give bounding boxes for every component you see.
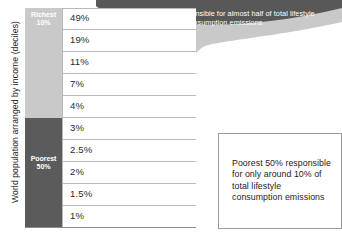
decile-cell-5 <box>25 96 62 118</box>
lifestyle-emissions-funnel-chart: World population arranged by income (dec… <box>0 0 342 235</box>
table-row: 2% <box>62 162 196 184</box>
decile-color-column: Richest 10% Poorest 50% <box>25 8 62 228</box>
group-label-richest: Richest 10% <box>25 11 62 28</box>
group-label-poorest-line2: 50% <box>37 163 51 171</box>
annotation-richest: Richest 10% responsible for almost half … <box>112 9 336 28</box>
decile-cell-2 <box>25 30 62 52</box>
decile-value-3: 11% <box>70 56 89 67</box>
table-row: 19% <box>62 30 196 52</box>
table-row: 1% <box>62 206 196 228</box>
group-label-richest-line2: 10% <box>37 19 51 27</box>
group-label-poorest-line1: Poorest <box>31 155 57 163</box>
table-row: 11% <box>62 52 196 74</box>
decile-cell-9 <box>25 184 62 206</box>
table-row: 4% <box>62 96 196 118</box>
plot-bottom-axis-line <box>25 227 196 228</box>
decile-cell-6 <box>25 118 62 140</box>
decile-column-divider <box>62 8 63 228</box>
decile-value-9: 1.5% <box>70 188 92 199</box>
decile-value-2: 19% <box>70 34 90 45</box>
value-rows: 49% 19% 11% 7% 4% 3% 2.5% 2% 1.5% 1% <box>62 8 196 228</box>
decile-cell-10 <box>25 206 62 228</box>
decile-value-4: 7% <box>70 78 84 89</box>
group-label-poorest: Poorest 50% <box>25 155 62 172</box>
annotation-poorest: Poorest 50% responsible for only around … <box>232 158 332 203</box>
group-label-richest-line1: Richest <box>31 11 56 19</box>
table-row: 7% <box>62 74 196 96</box>
decile-cell-4 <box>25 74 62 96</box>
table-row: 3% <box>62 118 196 140</box>
decile-value-8: 2% <box>70 166 84 177</box>
decile-cell-3 <box>25 52 62 74</box>
decile-value-7: 2.5% <box>70 144 92 155</box>
table-row: 2.5% <box>62 140 196 162</box>
y-axis-title: World population arranged by income (dec… <box>10 3 20 221</box>
decile-value-1: 49% <box>70 12 90 23</box>
table-row: 1.5% <box>62 184 196 206</box>
plot-area: Richest 10% Poorest 50% 49% 19% 11% 7% 4… <box>25 8 196 228</box>
decile-value-5: 4% <box>70 100 84 111</box>
decile-value-10: 1% <box>70 210 84 221</box>
decile-value-6: 3% <box>70 122 84 133</box>
